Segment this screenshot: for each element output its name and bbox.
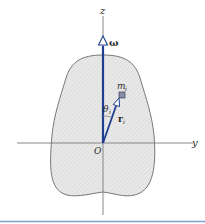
mass-subscript: i	[125, 85, 127, 92]
theta-subscript: i	[109, 108, 111, 115]
omega-label: ω	[109, 37, 119, 48]
y-axis-label: y	[191, 137, 198, 148]
z-axis-label: z	[99, 5, 106, 16]
r-subscript: i	[123, 118, 125, 125]
rotating-body-diagram: z y O ω m i θ i r i	[0, 0, 205, 224]
omega-arrowhead-icon	[99, 36, 108, 45]
mass-element	[119, 92, 125, 98]
origin-label: O	[94, 146, 102, 156]
